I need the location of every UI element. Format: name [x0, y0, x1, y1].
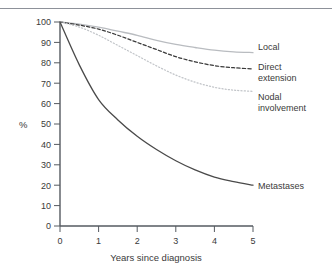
y-tick-label-0: 0: [46, 221, 51, 231]
x-tick-label-0: 0: [57, 236, 62, 246]
series-label-direct-extension-line1: Direct: [258, 62, 282, 72]
series-label-local: Local: [258, 42, 280, 52]
y-tick-label-100: 100: [36, 17, 51, 27]
y-axis-title: %: [19, 119, 28, 130]
y-tick-label-10: 10: [41, 201, 51, 211]
x-tick-label-5: 5: [250, 236, 255, 246]
chart-svg: 100 90 80 70 60 50 40 30 20 10 0 % 0 1: [0, 0, 332, 273]
x-tick-label-2: 2: [135, 236, 140, 246]
x-tick-label-1: 1: [96, 236, 101, 246]
series-label-nodal-involvement-line1: Nodal: [258, 92, 282, 102]
y-tick-label-30: 30: [41, 160, 51, 170]
x-axis-title: Years since diagnosis: [110, 252, 202, 263]
y-tick-labels-group: 100 90 80 70 60 50 40 30 20 10 0: [36, 17, 51, 231]
y-ticks-group: [54, 22, 60, 226]
series-line-direct-extension: [60, 22, 253, 69]
series-label-nodal-involvement-line2: involvement: [258, 103, 307, 113]
x-tick-labels-group: 0 1 2 3 4 5: [57, 236, 255, 246]
series-label-direct-extension-line2: extension: [258, 73, 297, 83]
y-tick-label-80: 80: [41, 58, 51, 68]
y-tick-label-60: 60: [41, 99, 51, 109]
x-tick-label-3: 3: [173, 236, 178, 246]
y-tick-label-20: 20: [41, 181, 51, 191]
survival-curve-figure: 100 90 80 70 60 50 40 30 20 10 0 % 0 1: [0, 0, 332, 273]
y-tick-label-50: 50: [41, 119, 51, 129]
series-layer: [60, 22, 253, 185]
x-ticks-group: [60, 226, 253, 232]
series-line-metastases: [60, 22, 253, 185]
series-label-metastases: Metastases: [258, 181, 305, 191]
y-tick-label-90: 90: [41, 38, 51, 48]
y-tick-label-70: 70: [41, 79, 51, 89]
axes-group: [60, 22, 253, 226]
x-tick-label-4: 4: [212, 236, 217, 246]
y-tick-label-40: 40: [41, 140, 51, 150]
series-line-nodal-involvement: [60, 22, 253, 91]
